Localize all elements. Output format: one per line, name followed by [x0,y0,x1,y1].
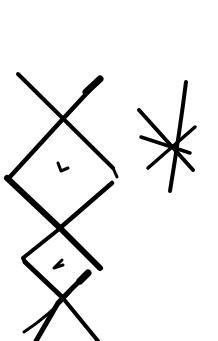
sketch-drawing [0,0,218,341]
lower-tick-icon [54,260,63,268]
asterisk-star-icon [139,82,195,191]
lower-x-icon [24,273,98,341]
upper-diamond-icon [7,168,117,268]
lower-diamond-icon [23,230,62,297]
upper-x-icon [8,74,113,179]
upper-tick-icon [58,163,68,171]
sketch-canvas: Hand-drawn black ink sketch on white: a … [0,0,218,341]
